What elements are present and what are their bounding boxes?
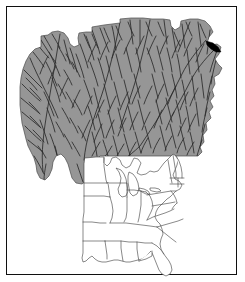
state-border-nc-va xyxy=(157,219,183,227)
inset-outer-boundary xyxy=(82,154,182,276)
inset-states-group xyxy=(82,154,184,276)
map-figure: watershed-basin-map eastern-us-locator-m… xyxy=(0,0,245,282)
state-border-nj-de xyxy=(172,203,177,209)
eastern-us-locator-map xyxy=(0,0,245,282)
inset-map-layer xyxy=(0,0,245,282)
